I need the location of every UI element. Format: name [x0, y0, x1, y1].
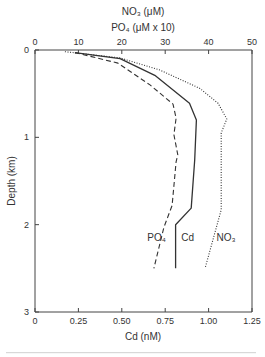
bottom-tick-label: 1.25 [243, 316, 261, 326]
depth-tick-label: 1 [24, 132, 29, 142]
depth-axis-title: Depth (km) [6, 156, 17, 205]
top-axis-ticks: 01020304050 [32, 37, 257, 54]
series-line-cd [75, 53, 196, 269]
top-tick-label: 10 [73, 37, 83, 47]
bottom-axis-title: Cd (nM) [125, 331, 161, 342]
top-tick-label: 20 [117, 37, 127, 47]
bottom-tick-label: 0.50 [113, 316, 131, 326]
top-axis-title-po4: PO₄ (μM x 10) [111, 22, 175, 33]
top-tick-label: 40 [204, 37, 214, 47]
depth-profile-chart: NO₃ (μM) PO₄ (μM x 10) 01020304050 00.25… [0, 0, 265, 357]
series-labels: PO₄CdNO₃ [147, 232, 235, 243]
bottom-tick-label: 1.00 [200, 316, 218, 326]
bottom-axis-ticks: 00.250.500.751.001.25 [32, 308, 260, 326]
depth-tick-label: 2 [24, 220, 29, 230]
top-axis-title-no3: NO₃ (μM) [122, 6, 165, 17]
depth-tick-label: 0 [24, 45, 29, 55]
series-line-no3 [65, 52, 227, 269]
top-tick-label: 30 [160, 37, 170, 47]
top-tick-label: 50 [247, 37, 257, 47]
plot-frame [35, 50, 252, 312]
bottom-tick-label: 0 [32, 316, 37, 326]
series-label-no3: NO₃ [216, 232, 235, 243]
depth-tick-label: 3 [24, 307, 29, 317]
top-tick-label: 0 [32, 37, 37, 47]
depth-axis-ticks: 0123 [24, 45, 39, 317]
series-group [65, 52, 227, 269]
bottom-tick-label: 0.25 [70, 316, 88, 326]
caption-remnant [6, 352, 256, 353]
bottom-tick-label: 0.75 [156, 316, 174, 326]
series-label-po4: PO₄ [147, 232, 166, 243]
series-label-cd: Cd [181, 232, 194, 243]
